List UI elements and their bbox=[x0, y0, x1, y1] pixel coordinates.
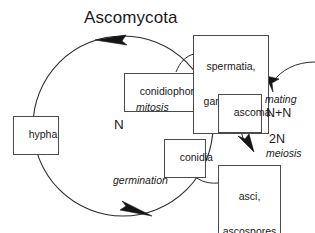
label-haploid-n: N bbox=[114, 118, 124, 133]
box-asci-ascospores: asci, ascospores bbox=[218, 165, 281, 233]
label-mitosis: mitosis bbox=[136, 102, 169, 113]
box-asci-line1: asci, bbox=[222, 191, 277, 203]
label-germination: germination bbox=[113, 175, 168, 186]
box-ascoma-label: ascoma bbox=[234, 106, 271, 118]
cycle-arrow-bottom-icon bbox=[120, 201, 152, 216]
connector-spermatia-to-hypha bbox=[176, 54, 194, 72]
ascomycota-life-cycle-diagram: Ascomycota hypha conidiophore conidia sp… bbox=[0, 0, 315, 233]
box-conidiophore-label: conidiophore bbox=[140, 85, 200, 97]
label-mating: mating bbox=[265, 94, 297, 105]
box-hypha: hypha bbox=[13, 116, 59, 155]
box-conidia-label: conidia bbox=[180, 151, 213, 163]
box-hypha-label: hypha bbox=[29, 128, 58, 140]
label-diploid-2n: 2N bbox=[269, 133, 285, 147]
label-dikaryon-npn: N+N bbox=[266, 107, 291, 121]
karyogamy-arrowhead-icon bbox=[238, 134, 254, 152]
page-title: Ascomycota bbox=[84, 9, 178, 27]
box-asci-line2: ascospores bbox=[222, 226, 277, 233]
box-ascoma: ascoma bbox=[218, 94, 262, 133]
box-spermatia-line1: spermatia, bbox=[197, 61, 265, 73]
label-meiosis: meiosis bbox=[266, 148, 302, 159]
box-conidia: conidia bbox=[164, 139, 206, 178]
